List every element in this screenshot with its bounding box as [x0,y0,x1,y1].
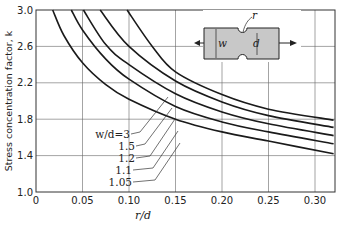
x-tick-label: 0.05 [71,195,93,206]
y-axis-label: Stress concentration factor, k [3,30,14,171]
x-tick-label: 0.20 [211,195,233,206]
x-tick-label: 0.30 [304,195,326,206]
curve-label-1.05: 1.05 [109,176,132,188]
curve-leader-lines [131,97,180,182]
y-tick-label: 3.0 [17,5,33,16]
curve-labels: w/d=3 1.5 1.2 1.1 1.05 [95,128,135,188]
y-tick-label: 1.0 [17,187,33,198]
x-tick-label: 0 [33,195,39,206]
x-axis-ticks: 00.050.100.150.200.250.30 [33,195,326,206]
x-tick-label: 0.10 [118,195,140,206]
x-tick-label: 0.15 [164,195,186,206]
notched-bar [204,28,279,59]
curve-label-3: w/d=3 [95,128,130,140]
y-axis-ticks: 1.01.41.82.22.63.0 [17,5,33,198]
x-tick-label: 0.25 [257,195,279,206]
y-tick-label: 1.8 [17,114,33,125]
arrow-left-icon [194,40,200,46]
inset-label-w: w [218,37,227,49]
x-axis-label: r/d [135,209,151,222]
inset-diagram: w d r [194,9,301,62]
curve-label-1.5: 1.5 [118,140,135,152]
stress-concentration-chart: 1.01.41.82.22.63.0 00.050.100.150.200.25… [0,0,343,232]
y-tick-label: 1.4 [17,150,33,161]
curve-label-1.1: 1.1 [115,164,132,176]
inset-label-d: d [253,37,260,49]
curve-label-1.2: 1.2 [118,152,135,164]
y-tick-label: 2.6 [17,41,33,52]
y-tick-label: 2.2 [17,77,33,88]
